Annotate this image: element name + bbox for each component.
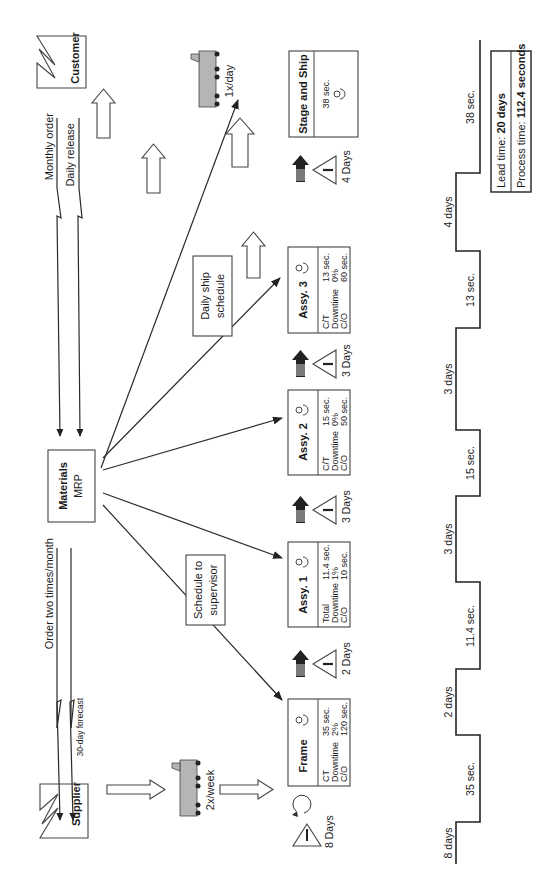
customer-label: Customer [69,32,81,84]
svg-text:schedule: schedule [214,274,226,318]
info-flow-to-supplier: Order two times/month 30-day forecast [43,538,85,820]
process-name: Assy. 1 [297,576,309,614]
schedule-to-supervisor-box: Schedule to supervisor [186,555,225,625]
process-name: Assy. 2 [297,423,309,461]
truck-icon [191,51,220,107]
info-flow-from-customer: Monthly order Daily release [43,113,82,436]
summary-box: Lead time: 20 days Process time: 112.4 s… [491,44,531,192]
control-subtitle: MRP [72,474,84,497]
push-arrow-icon [292,496,309,523]
push-block-arrow-icon [142,144,165,193]
wait-time: 3 days [442,524,454,555]
customer-inbound-arrows [92,89,265,278]
control-title: Materials [57,462,69,510]
svg-text:C/O: C/O [339,455,349,471]
wait-time: 4 days [442,197,454,228]
push-block-arrow-icon [107,780,165,799]
order-frequency-label: Order two times/month [43,538,55,649]
process-box-assy-1: Assy. 1 Total 11.4 sec. Downtime 1% C/O … [288,542,350,627]
daily-release-label: Daily release [64,123,76,187]
process-name: Assy. 3 [297,281,309,319]
process-box-stage-and-ship: Stage and Ship 38 sec. [289,51,358,137]
process-time: 15 sec. [464,446,476,480]
svg-text:supervisor: supervisor [207,564,219,615]
process-box-assy-2: Assy. 2 C/T 15 sec. Downtime 0% C/O 50 s… [288,390,350,475]
supplier-factory: Supplier [40,781,88,838]
monthly-order-label: Monthly order [43,113,55,181]
inbound-truck: 2x/week [172,760,216,816]
value-stream-map: Customer 1x/day [0,0,552,878]
outbound-frequency: 1x/day [223,64,235,97]
push-block-arrow-icon [220,780,273,799]
svg-text:38 sec.: 38 sec. [321,79,331,108]
outbound-truck: 1x/day [191,51,235,107]
wait-time: 3 days [442,364,454,395]
svg-text:C/O: C/O [339,766,349,782]
svg-text:4 Days: 4 Days [340,150,352,183]
svg-text:C/O: C/O [339,607,349,623]
push-arrow-icon [292,350,309,377]
inventory-stage-and-ship: 4 Days [292,150,352,184]
process-time: 35 sec. [464,762,476,796]
daily-ship-schedule-box: Daily ship schedule [193,256,232,336]
process-name: Frame [297,739,309,772]
svg-text:Daily ship: Daily ship [199,272,211,320]
inventory-assy-2: 3 Days [292,490,352,524]
process-name: Stage and Ship [297,54,309,134]
svg-text:2 Days: 2 Days [340,642,352,675]
push-arrow-icon [292,155,309,182]
process-time: 13 sec. [464,273,476,307]
svg-text:Schedule to: Schedule to [192,561,204,619]
wait-time: 2 days [442,687,454,718]
process-box-frame: Frame CT 35 sec. Downtime 2% C/O 120 sec… [288,699,350,786]
process-time: 38 sec. [464,90,476,124]
production-control: Materials MRP [48,450,95,522]
lead-time: Lead time: 20 days [495,93,507,188]
svg-text:3 Days: 3 Days [340,344,352,377]
svg-text:C/O: C/O [339,313,349,329]
svg-text:120 sec.: 120 sec. [339,702,349,736]
push-arrow-icon [292,650,309,677]
svg-text:10 sec.: 10 sec. [339,551,349,580]
process-box-assy-3: Assy. 3 C/T 13 sec. Downtime 0% C/O 60 s… [288,247,350,333]
push-block-arrow-icon [92,89,115,138]
truck-icon [172,760,201,816]
inbound-frequency: 2x/week [204,769,216,810]
svg-text:8 Days: 8 Days [323,815,335,848]
forecast-label: 30-day forecast [75,697,85,756]
push-block-arrow-icon [242,232,265,278]
svg-text:50 sec.: 50 sec. [339,397,349,426]
inventory-assy-1: 2 Days [292,642,352,678]
svg-text:60 sec.: 60 sec. [339,253,349,282]
push-block-arrow-icon [226,118,254,167]
inventory-frame: 8 Days [293,815,335,848]
process-time-total: Process time: 112.4 seconds [515,44,527,188]
timeline-ladder: 8 days 2 days 3 days 3 days 4 days 35 se… [442,40,480,864]
inventory-assy-3: 3 Days [292,344,352,378]
wait-time: 8 days [442,828,454,859]
customer-factory: Customer [37,32,86,88]
svg-text:3 Days: 3 Days [340,490,352,523]
process-time: 11.4 sec. [464,605,476,647]
circular-arrow-icon [292,795,311,817]
